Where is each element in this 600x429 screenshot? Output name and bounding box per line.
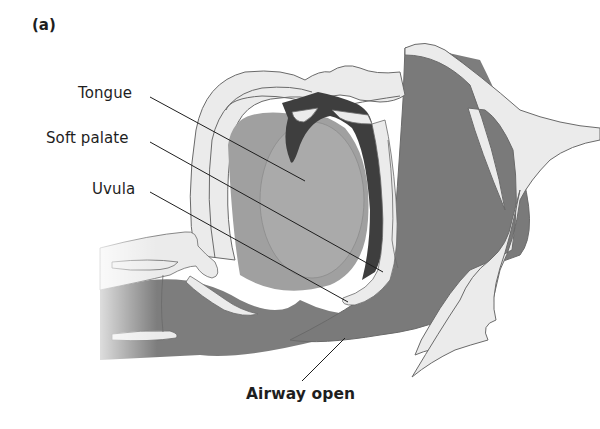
airway-anatomy-figure: (a): [0, 0, 600, 429]
airway-open-label: Airway open: [246, 385, 355, 403]
soft-palate-label: Soft palate: [46, 129, 129, 147]
uvula-label: Uvula: [92, 180, 135, 198]
tongue-label: Tongue: [78, 84, 132, 102]
airway-leader-line: [302, 338, 345, 381]
anatomy-illustration: [0, 0, 600, 429]
